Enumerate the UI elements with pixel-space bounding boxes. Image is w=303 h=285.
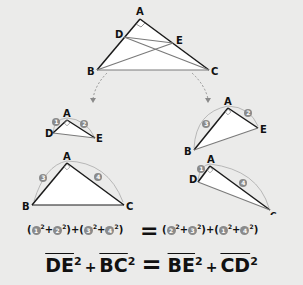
label-a: A [136,6,144,17]
svg-text:C: C [126,201,133,212]
svg-text:4: 4 [241,179,245,186]
equals-sign: = [140,218,158,243]
svg-text:1: 1 [199,165,203,172]
equation-right-side: (22+32)+(12+42) [162,223,258,235]
badge-1-icon: 1 [219,226,228,235]
badge-2-icon: 2 [53,226,62,235]
svg-text:D: D [45,128,53,139]
svg-text:3: 3 [204,120,208,127]
sub-triangle-adc: 1 4 A D C [189,154,277,215]
svg-text:3: 3 [41,174,45,181]
svg-text:2: 2 [82,120,86,127]
badge-3-icon: 3 [188,226,197,235]
sub-triangle-ade: 1 2 A D E [45,108,103,144]
svg-text:E: E [260,124,267,135]
numeric-equation: (12+22)+(32+42) = (22+32)+(12+42) [0,218,303,244]
arrow-right-icon [192,73,208,99]
svg-text:A: A [63,108,71,119]
label-e: E [176,35,183,46]
svg-text:1: 1 [54,118,58,125]
term-bc: BC [99,254,127,276]
label-b: B [87,66,95,77]
equals-sign: = [141,251,161,279]
arrowhead-left-icon [90,98,96,103]
svg-text:A: A [207,154,215,165]
svg-text:2: 2 [246,109,250,116]
term-be: BE [168,254,195,276]
svg-text:C: C [270,211,277,215]
segment-equation: DE2+BC2=BE2+CD2 [0,250,303,278]
equation-left-side: (12+22)+(32+42) [27,223,123,235]
svg-text:4: 4 [96,173,100,180]
svg-text:B: B [184,146,192,157]
arrowhead-right-icon [205,98,211,103]
svg-text:A: A [63,151,71,162]
arrow-left-icon [93,73,107,99]
sub-triangle-abc: 3 4 A B C [22,151,133,212]
term-de: DE [45,254,74,276]
term-cd: CD [220,254,250,276]
svg-text:A: A [224,96,232,107]
main-triangle: A D E B C [87,6,218,77]
diagram-canvas: A D E B C 1 2 A D E 3 4 A B [0,0,303,215]
svg-text:E: E [96,133,103,144]
sub-triangle-abe: 3 2 A B E [184,96,267,157]
label-d: D [115,29,123,40]
label-c: C [211,66,218,77]
badge-2-icon: 2 [167,226,176,235]
svg-text:D: D [189,174,197,185]
badge-3-icon: 3 [84,226,93,235]
svg-text:B: B [22,201,30,212]
badge-1-icon: 1 [32,226,41,235]
